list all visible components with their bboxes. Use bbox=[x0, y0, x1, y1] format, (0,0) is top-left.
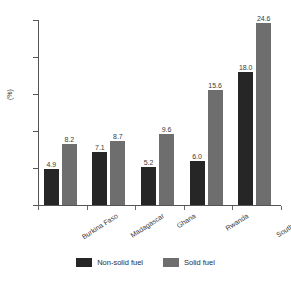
x-axis-tick bbox=[232, 206, 233, 210]
bar: 18.0 bbox=[238, 72, 253, 205]
bar: 4.9 bbox=[44, 169, 59, 205]
x-axis-line bbox=[38, 205, 281, 206]
bar-value-label: 8.7 bbox=[113, 133, 123, 140]
y-axis-tick-label-wrap: 10 bbox=[0, 131, 38, 132]
bar-value-label: 5.2 bbox=[144, 159, 154, 166]
y-axis-tick-label-wrap: 0 bbox=[0, 205, 38, 206]
plot-area: 4.98.27.18.75.29.66.015.618.024.6 bbox=[38, 20, 281, 205]
legend-label: Non-solid fuel bbox=[97, 259, 143, 267]
bar: 8.7 bbox=[110, 141, 125, 205]
x-axis-category-label: Ghana bbox=[175, 212, 196, 229]
bar: 15.6 bbox=[208, 90, 223, 205]
x-axis-tick bbox=[38, 206, 39, 210]
legend-swatch bbox=[76, 258, 92, 267]
bar-value-label: 4.9 bbox=[46, 161, 56, 168]
bar-value-label: 24.6 bbox=[257, 15, 271, 22]
x-axis-category-label: Burkina Faso bbox=[81, 212, 119, 240]
bar-value-label: 8.2 bbox=[64, 136, 74, 143]
legend-item: Non-solid fuel bbox=[76, 258, 143, 267]
y-axis-tick-label-wrap: 15 bbox=[0, 94, 38, 95]
bar-chart: (%) 0510152025 4.98.27.18.75.29.66.015.6… bbox=[0, 0, 291, 288]
x-axis-category-label: Madagascar bbox=[129, 212, 165, 239]
x-axis-tick bbox=[87, 206, 88, 210]
bar: 24.6 bbox=[256, 23, 271, 205]
x-axis-tick bbox=[281, 206, 282, 210]
bar-value-label: 7.1 bbox=[95, 144, 105, 151]
legend-item: Solid fuel bbox=[163, 258, 215, 267]
x-axis-tick bbox=[135, 206, 136, 210]
y-axis-tick-label-wrap: 5 bbox=[0, 168, 38, 169]
y-axis-tick-label-wrap: 25 bbox=[0, 20, 38, 21]
bar-value-label: 15.6 bbox=[208, 82, 222, 89]
legend-label: Solid fuel bbox=[184, 259, 215, 267]
x-axis-category-label: Rwanda bbox=[224, 212, 249, 232]
bar: 5.2 bbox=[141, 167, 156, 205]
bar-value-label: 18.0 bbox=[239, 64, 253, 71]
x-axis-category-label: South Africa bbox=[275, 212, 291, 238]
bar: 8.2 bbox=[62, 144, 77, 205]
bar: 9.6 bbox=[159, 134, 174, 205]
bar-value-label: 6.0 bbox=[192, 153, 202, 160]
bar: 7.1 bbox=[92, 152, 107, 205]
legend-swatch bbox=[163, 258, 179, 267]
chart-legend: Non-solid fuelSolid fuel bbox=[0, 258, 291, 267]
bar-value-label: 9.6 bbox=[162, 126, 172, 133]
y-axis-tick-label-wrap: 20 bbox=[0, 57, 38, 58]
x-axis-tick bbox=[184, 206, 185, 210]
bar: 6.0 bbox=[190, 161, 205, 205]
